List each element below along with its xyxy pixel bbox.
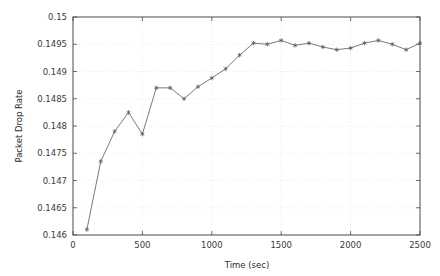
y-tick-label: 0.148	[43, 121, 67, 131]
y-tick-label: 0.1495	[37, 39, 67, 49]
y-tick-label: 0.15	[48, 12, 67, 22]
x-tick-label: 2500	[409, 240, 431, 250]
y-tick-label: 0.149	[43, 67, 67, 77]
y-tick-label: 0.146	[43, 230, 67, 240]
y-axis-tick-labels: 0.1460.14650.1470.14750.1480.14850.1490.…	[37, 12, 67, 240]
y-tick-label: 0.1465	[37, 203, 67, 213]
x-tick-label: 2000	[340, 240, 362, 250]
x-tick-label: 1500	[270, 240, 292, 250]
x-tick-label: 0	[70, 240, 75, 250]
y-tick-label: 0.147	[43, 176, 67, 186]
x-axis-tick-labels: 05001000150020002500	[70, 240, 431, 250]
packet-drop-rate-line-chart: 0.1460.14650.1470.14750.1480.14850.1490.…	[0, 0, 440, 276]
x-axis-title: Time (sec)	[224, 260, 269, 270]
chart-container: 0.1460.14650.1470.14750.1480.14850.1490.…	[0, 0, 440, 276]
x-tick-label: 500	[134, 240, 150, 250]
x-tick-label: 1000	[201, 240, 223, 250]
y-tick-label: 0.1475	[37, 148, 67, 158]
y-tick-label: 0.1485	[37, 94, 67, 104]
y-axis-title: Packet Drop Rate	[14, 89, 24, 162]
